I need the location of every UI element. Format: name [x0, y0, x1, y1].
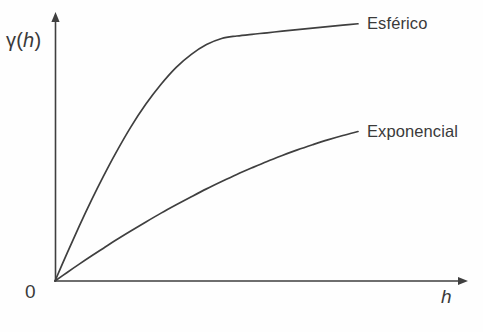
x-axis-arrowhead: [458, 277, 468, 285]
variogram-figure: γ(h) h 0 Esférico Exponencial: [0, 0, 483, 332]
origin-label: 0: [25, 282, 36, 301]
y-axis-label-paren-close: ): [34, 29, 41, 51]
y-axis-label-gamma: γ(: [6, 29, 23, 51]
plot-canvas: [0, 0, 483, 332]
x-axis-label: h: [441, 287, 452, 306]
y-axis-arrowhead: [51, 12, 59, 22]
curve-spherical: [55, 24, 358, 281]
y-axis-label: γ(h): [6, 30, 41, 50]
curve-label-spherical: Esférico: [367, 15, 427, 32]
y-axis-label-variable: h: [23, 29, 34, 51]
curve-label-exponential: Exponencial: [367, 123, 458, 140]
curve-exponential: [55, 132, 358, 281]
